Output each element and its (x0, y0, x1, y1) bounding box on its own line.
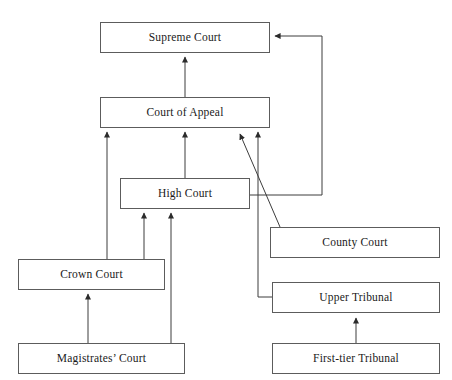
node-label-first-tier-tribunal: First-tier Tribunal (313, 353, 399, 365)
node-label-court-of-appeal: Court of Appeal (146, 107, 223, 119)
node-crown-court[interactable]: Crown Court (18, 259, 165, 290)
node-label-upper-tribunal: Upper Tribunal (319, 292, 392, 304)
node-label-magistrates-court: Magistrates’ Court (57, 353, 146, 365)
edge-upper-tribunal-to-court-of-appeal (258, 132, 272, 297)
node-label-crown-court: Crown Court (60, 269, 123, 281)
node-magistrates-court[interactable]: Magistrates’ Court (18, 343, 185, 374)
node-court-of-appeal[interactable]: Court of Appeal (100, 97, 270, 128)
node-county-court[interactable]: County Court (270, 227, 440, 258)
node-upper-tribunal[interactable]: Upper Tribunal (272, 282, 440, 313)
node-high-court[interactable]: High Court (120, 178, 250, 209)
node-supreme-court[interactable]: Supreme Court (100, 22, 270, 53)
node-label-high-court: High Court (158, 188, 212, 200)
node-label-county-court: County Court (322, 237, 387, 249)
node-label-supreme-court: Supreme Court (149, 32, 222, 44)
node-first-tier-tribunal[interactable]: First-tier Tribunal (272, 343, 440, 374)
court-hierarchy-diagram: Supreme Court Court of Appeal High Court… (0, 0, 452, 380)
